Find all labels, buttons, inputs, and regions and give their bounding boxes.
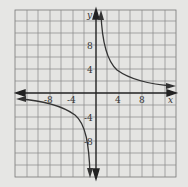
- x-tick-neg8: -8: [44, 95, 53, 105]
- y-axis-label: y: [86, 10, 93, 20]
- hyperbola-graph: y x -8 -4 4 8 8 4 -4 -8: [0, 0, 188, 187]
- x-tick-neg4: -4: [67, 95, 76, 105]
- x-tick-8: 8: [139, 95, 145, 105]
- y-tick-neg8: -8: [84, 137, 93, 147]
- y-tick-4: 4: [87, 65, 93, 75]
- x-axis-label: x: [168, 95, 173, 105]
- x-tick-4: 4: [115, 95, 121, 105]
- y-tick-8: 8: [87, 41, 93, 51]
- y-axis-down-arrow-icon: [93, 169, 99, 179]
- y-tick-neg4: -4: [84, 113, 93, 123]
